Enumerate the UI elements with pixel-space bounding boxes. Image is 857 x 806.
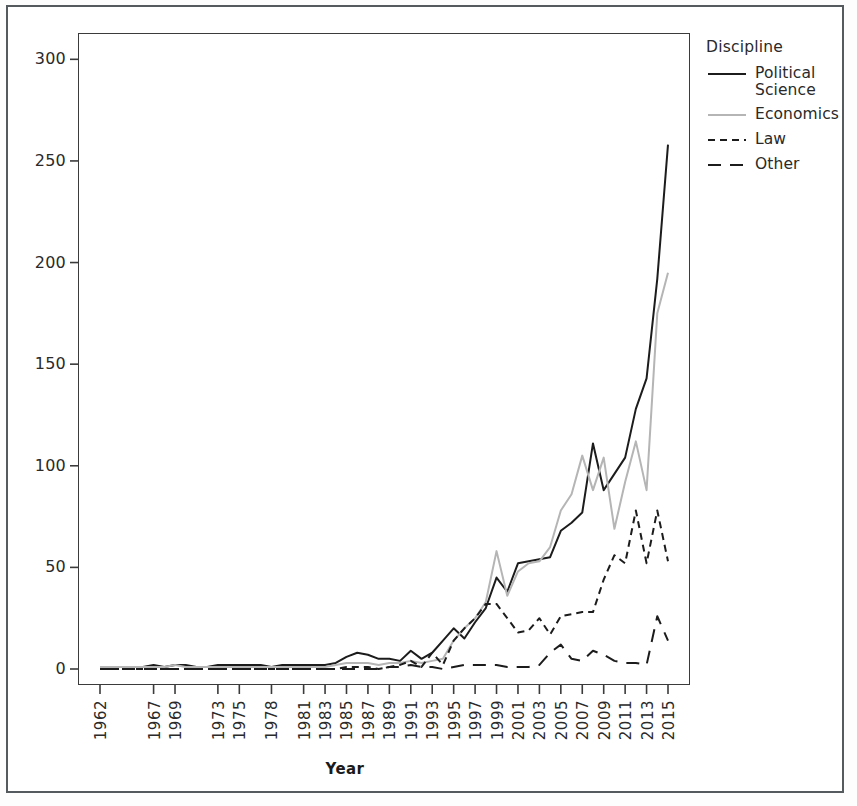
x-tick-label: 2009 bbox=[596, 700, 614, 740]
legend-entries: Political ScienceEconomicsLawOther bbox=[706, 65, 846, 174]
legend-line-swatch bbox=[706, 156, 748, 174]
x-tick-label: 1975 bbox=[231, 700, 249, 740]
x-tick-label: 2005 bbox=[553, 700, 571, 740]
x-tick-label: 1973 bbox=[210, 700, 228, 740]
y-tick-label: 300 bbox=[12, 49, 66, 68]
legend-line-swatch bbox=[706, 106, 748, 124]
x-tick-label: 1983 bbox=[317, 700, 335, 740]
legend-line-swatch bbox=[706, 65, 748, 83]
x-tick-label: 2011 bbox=[617, 700, 635, 740]
legend-item: Political Science bbox=[706, 65, 846, 99]
x-tick-label: 1991 bbox=[403, 700, 421, 740]
x-tick-label: 1995 bbox=[446, 700, 464, 740]
legend: Discipline Political ScienceEconomicsLaw… bbox=[706, 38, 846, 181]
legend-line-swatch bbox=[706, 131, 748, 149]
data-lines bbox=[78, 33, 690, 685]
x-tick-label: 1967 bbox=[146, 700, 164, 740]
y-tick-label: 150 bbox=[12, 354, 66, 373]
x-tick-label: 1987 bbox=[360, 700, 378, 740]
y-tick-label: 250 bbox=[12, 151, 66, 170]
series-line bbox=[100, 273, 668, 667]
legend-item-label: Economics bbox=[755, 106, 839, 123]
x-tick-label: 1962 bbox=[92, 700, 110, 740]
x-tick-label: 1989 bbox=[381, 700, 399, 740]
figure: 050100150200250300 196219671969197319751… bbox=[0, 0, 857, 806]
x-tick-label: 1993 bbox=[424, 700, 442, 740]
x-axis-title: Year bbox=[0, 760, 690, 778]
legend-item: Economics bbox=[706, 106, 846, 124]
x-tick-label: 1985 bbox=[338, 700, 356, 740]
series-line bbox=[100, 510, 668, 669]
series-line bbox=[100, 616, 668, 669]
x-tick-label: 2013 bbox=[639, 700, 657, 740]
legend-item-label: Other bbox=[755, 156, 800, 173]
x-tick-label: 2007 bbox=[574, 700, 592, 740]
legend-item-label: Political Science bbox=[755, 65, 846, 99]
legend-item: Law bbox=[706, 131, 846, 149]
y-tick-label: 200 bbox=[12, 253, 66, 272]
legend-title: Discipline bbox=[706, 38, 846, 56]
x-tick-label: 2003 bbox=[531, 700, 549, 740]
y-tick-label: 0 bbox=[12, 659, 66, 678]
legend-item-label: Law bbox=[755, 131, 786, 148]
x-tick-label: 1969 bbox=[167, 700, 185, 740]
y-tick-label: 50 bbox=[12, 557, 66, 576]
legend-item: Other bbox=[706, 156, 846, 174]
x-tick-label: 1978 bbox=[263, 700, 281, 740]
x-tick-label: 2001 bbox=[510, 700, 528, 740]
x-tick-label: 1981 bbox=[296, 700, 314, 740]
x-tick-label: 2015 bbox=[660, 700, 678, 740]
x-tick-label: 1999 bbox=[489, 700, 507, 740]
x-tick-label: 1997 bbox=[467, 700, 485, 740]
y-tick-label: 100 bbox=[12, 456, 66, 475]
series-line bbox=[100, 145, 668, 667]
